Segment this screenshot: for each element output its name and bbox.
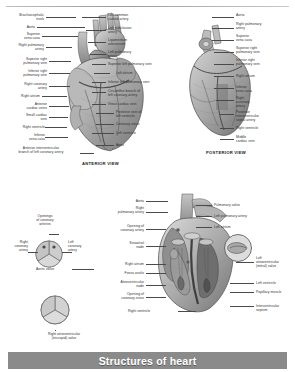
label-pulmonary-valve: Pulmonary valve bbox=[214, 203, 274, 207]
label-right-ventricle-posterior: Right ventricle bbox=[236, 126, 286, 130]
label-left-atrioventricular-mitral-valve: Left atrioventricular (mitral) valve bbox=[256, 256, 294, 268]
tricuspid-valve-inset-illustration bbox=[38, 293, 72, 327]
label-aorta-anterior: Aorta bbox=[2, 25, 35, 29]
label-superior-vena-cava-anterior: Superior vena cava bbox=[2, 32, 40, 40]
label-middle-cardiac-vein: Middle cardiac vein bbox=[236, 135, 286, 143]
label-superior-vena-cava-posterior: Superior vena cava bbox=[236, 34, 286, 42]
label-aorta-posterior: Aorta bbox=[236, 13, 286, 17]
label-aorta-sectional: Aorta bbox=[98, 199, 144, 203]
label-left-pulmonary-artery-sectional: Left pulmonary artery bbox=[214, 214, 284, 218]
label-right-atrium-anterior: Right atrium bbox=[2, 94, 40, 98]
label-coronary-sinus: Coronary sinus bbox=[116, 122, 166, 126]
label-left-atrium-anterior: Left atrium bbox=[116, 71, 160, 75]
label-left-atrium-sectional: Left atrium bbox=[214, 225, 274, 229]
label-posterior-vein-left-ventricle: Posterior vein of left ventricle bbox=[116, 110, 172, 118]
label-circumflex-branch-left-coronary-artery: Circumflex branch of left coronary arter… bbox=[108, 89, 170, 97]
label-brachiocephalic-trunk: Brachiocephalic trunk bbox=[2, 13, 44, 21]
label-right-pulmonary-artery-sectional: Right pulmonary artery bbox=[92, 206, 144, 214]
mitral-valve-inset-illustration bbox=[222, 232, 254, 264]
label-right-ventricle-anterior: Right ventricle bbox=[2, 125, 45, 129]
label-superior-right-pulmonary-vein-posterior: Superior right pulmonary vein bbox=[236, 46, 288, 54]
aortic-valve-inset-illustration bbox=[33, 238, 65, 270]
label-interventricular-septum: Interventricular septum bbox=[256, 304, 295, 312]
label-sinoatrial-node: Sinoatrial node bbox=[104, 241, 144, 249]
label-opening-of-coronary-artery: Opening of coronary artery bbox=[96, 224, 144, 232]
label-papillary-muscle: Papillary muscle bbox=[256, 290, 295, 294]
figure-title-banner: Structures of heart bbox=[8, 352, 287, 369]
label-right-coronary-artery-anterior: Right coronary artery bbox=[2, 82, 47, 90]
anterior-view-caption: ANTERIOR VIEW bbox=[82, 161, 119, 166]
label-atrioventricular-node: Atrioventricular node bbox=[96, 280, 144, 288]
figure-page: Brachiocephalic trunk Aorta Superior ven… bbox=[0, 0, 295, 372]
label-fossa-ovalis: Fossa ovalis bbox=[104, 271, 144, 275]
label-superior-left-pulmonary-vein: Superior left pulmonary vein bbox=[108, 62, 178, 66]
label-opening-of-coronary-sinus: Opening of coronary sinus bbox=[96, 292, 144, 300]
label-inferior-vena-cava-posterior: Inferior vena cava bbox=[236, 85, 286, 93]
label-anterior-cardiac-veins: Anterior cardiac veins bbox=[2, 102, 47, 110]
label-inferior-vena-cava-anterior: Inferior vena cava bbox=[2, 133, 45, 141]
label-right-atrium-sectional: Right atrium bbox=[104, 262, 144, 266]
label-superior-right-pulmonary-vein-anterior: Superior right pulmonary vein bbox=[2, 57, 47, 65]
posterior-view-caption: POSTERIOR VIEW bbox=[206, 150, 246, 155]
label-right-coronary-artery-inset: Right coronary artery bbox=[0, 240, 28, 252]
label-anterior-interventricular-branch: Anterior interventricular branch of left… bbox=[1, 146, 81, 154]
label-left-ventricle-sectional: Left ventricle bbox=[256, 281, 295, 285]
label-inferior-right-pulmonary-vein-anterior: Inferior right pulmonary vein bbox=[2, 69, 47, 77]
label-small-cardiac-vein: Small cardiac vein bbox=[2, 113, 47, 121]
label-aortic-valve: Aortic valve bbox=[36, 267, 72, 271]
label-right-ventricle-sectional: Right ventricle bbox=[128, 309, 176, 313]
label-apex: Apex bbox=[116, 143, 146, 147]
figure-title-text: Structures of heart bbox=[99, 355, 197, 367]
label-right-atrioventricular-tricuspid-valve: Right atrioventricular (tricuspid) valve bbox=[28, 332, 100, 340]
label-right-coronary-artery-posterior: Right coronary artery bbox=[236, 96, 286, 108]
label-great-cardiac-vein: Great cardiac vein bbox=[108, 102, 164, 106]
label-left-pulmonary-artery-anterior: Left pulmonary artery bbox=[108, 50, 152, 58]
label-inferior-right-pulmonary-vein-posterior: Inferior right pulmonary vein bbox=[236, 58, 288, 66]
label-posterior-interventricular-septal-artery: Posterior interventricular septal artery bbox=[236, 110, 288, 122]
label-left-subclavian-artery: Left subclavian artery bbox=[108, 26, 152, 34]
label-openings-of-coronary-arteries: Openings of coronary arteries bbox=[24, 214, 66, 226]
label-right-atrium-posterior: Right atrium bbox=[236, 74, 286, 78]
label-left-common-carotid-artery: Left common carotid artery bbox=[108, 13, 152, 21]
label-right-pulmonary-artery-anterior: Right pulmonary artery bbox=[2, 43, 44, 51]
label-right-pulmonary-artery-posterior: Right pulmonary artery bbox=[236, 22, 286, 30]
top-divider bbox=[6, 6, 289, 7]
label-ligamentum-arteriosum: Ligamentum arteriosum bbox=[108, 38, 152, 46]
label-left-ventricle-anterior: Left ventricle bbox=[116, 131, 166, 135]
label-left-coronary-artery-inset: Left coronary artery bbox=[68, 240, 96, 252]
label-inferior-left-pulmonary-vein: Inferior left pulmonary vein bbox=[108, 80, 178, 84]
